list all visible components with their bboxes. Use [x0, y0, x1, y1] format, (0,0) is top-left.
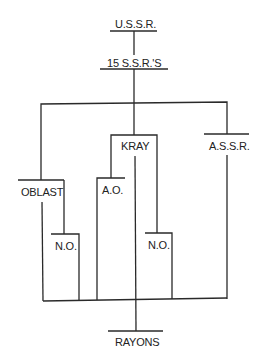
- label-no-left: N.O.: [55, 240, 77, 252]
- label-ao: A.O.: [102, 184, 123, 196]
- node-ao: A.O.: [97, 178, 125, 300]
- ao-bracket: [97, 178, 125, 300]
- node-rayons: RAYONS: [108, 331, 163, 348]
- label-kray: KRAY: [121, 140, 150, 152]
- node-no-right: N.O.: [145, 233, 172, 299]
- label-ussr: U.S.S.R.: [115, 18, 156, 30]
- label-no-right: N.O.: [148, 239, 170, 251]
- bottom-collection-bar: [43, 298, 227, 301]
- label-ssrs: 15 S.S.R.'S: [107, 57, 161, 69]
- node-ussr: U.S.S.R.: [110, 18, 157, 31]
- connector-kray-rayons: [135, 156, 136, 331]
- hierarchy-diagram: U.S.S.R. 15 S.S.R.'S KRAY A.S.S.R. OBLAS…: [0, 0, 262, 357]
- node-assr: A.S.S.R.: [204, 134, 250, 152]
- label-assr: A.S.S.R.: [209, 140, 250, 152]
- connector-oblast-bottom: [42, 202, 43, 301]
- node-oblast: OBLAST: [18, 180, 64, 234]
- node-ssrs: 15 S.S.R.'S: [100, 57, 168, 69]
- node-no-left: N.O.: [51, 234, 79, 300]
- label-oblast: OBLAST: [21, 186, 64, 198]
- label-rayons: RAYONS: [115, 336, 159, 348]
